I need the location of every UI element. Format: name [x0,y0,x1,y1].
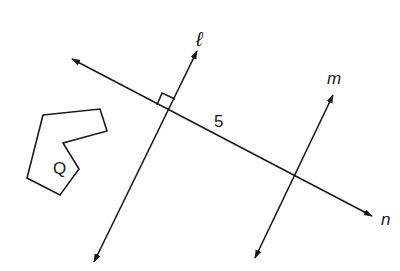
polygon-q [27,109,107,195]
label-l: ℓ [195,28,204,50]
line-m [255,95,333,258]
polygon-label-q: Q [53,159,66,178]
geometry-diagram: ℓ m n 5 Q [0,0,400,271]
label-n: n [381,210,390,229]
line-l [94,51,197,262]
segment-length-label: 5 [214,112,223,131]
label-m: m [327,69,341,88]
